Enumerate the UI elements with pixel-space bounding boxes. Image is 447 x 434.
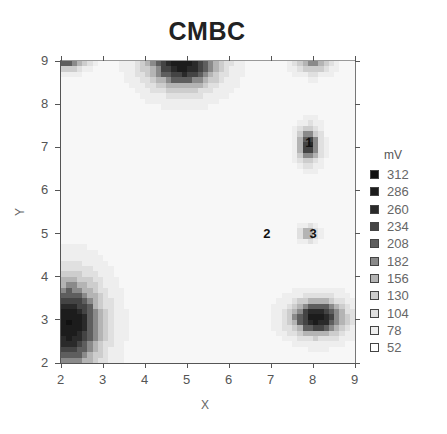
legend-label: 52 bbox=[387, 340, 401, 355]
legend-item: 234 bbox=[370, 218, 409, 235]
legend-item: 130 bbox=[370, 287, 409, 304]
x-tick-label: 7 bbox=[267, 372, 274, 387]
y-tick-right bbox=[355, 104, 360, 105]
x-tick-top bbox=[229, 56, 230, 61]
legend-item: 286 bbox=[370, 183, 409, 200]
legend-swatch bbox=[370, 343, 379, 352]
x-tick bbox=[271, 363, 272, 368]
y-tick-label: 2 bbox=[41, 355, 48, 370]
legend-item: 78 bbox=[370, 322, 409, 339]
x-tick-top bbox=[145, 56, 146, 61]
legend-swatch bbox=[370, 170, 379, 179]
y-tick-right bbox=[355, 233, 360, 234]
x-tick-label: 2 bbox=[57, 372, 64, 387]
legend-item: 260 bbox=[370, 201, 409, 218]
legend-swatch bbox=[370, 291, 379, 300]
x-tick bbox=[313, 363, 314, 368]
y-tick-label: 9 bbox=[41, 53, 48, 68]
legend: mV 3122862602342081821561301047852 bbox=[370, 148, 409, 356]
marker-2: 2 bbox=[260, 226, 274, 241]
legend-item: 156 bbox=[370, 270, 409, 287]
marker-1: 1 bbox=[302, 135, 316, 150]
legend-item: 208 bbox=[370, 235, 409, 252]
y-tick-right bbox=[355, 276, 360, 277]
legend-item: 182 bbox=[370, 252, 409, 269]
chart-title: CMBC bbox=[0, 17, 414, 46]
y-tick-label: 5 bbox=[41, 226, 48, 241]
y-tick bbox=[55, 233, 61, 234]
x-tick bbox=[187, 363, 188, 368]
y-tick-label: 6 bbox=[41, 182, 48, 197]
legend-label: 208 bbox=[387, 236, 409, 251]
legend-title: mV bbox=[384, 148, 409, 162]
y-tick-label: 8 bbox=[41, 96, 48, 111]
y-tick bbox=[55, 147, 61, 148]
legend-label: 260 bbox=[387, 202, 409, 217]
y-tick-label: 4 bbox=[41, 269, 48, 284]
legend-swatch bbox=[370, 257, 379, 266]
y-tick-label: 3 bbox=[41, 312, 48, 327]
x-tick bbox=[355, 363, 356, 368]
marker-3: 3 bbox=[306, 226, 320, 241]
legend-swatch bbox=[370, 222, 379, 231]
y-tick bbox=[55, 276, 61, 277]
legend-label: 234 bbox=[387, 219, 409, 234]
x-tick bbox=[145, 363, 146, 368]
legend-label: 312 bbox=[387, 167, 409, 182]
legend-swatch bbox=[370, 239, 379, 248]
heatmap-plot-area bbox=[61, 61, 355, 363]
x-tick-label: 8 bbox=[309, 372, 316, 387]
x-tick bbox=[229, 363, 230, 368]
legend-label: 130 bbox=[387, 288, 409, 303]
x-tick-top bbox=[103, 56, 104, 61]
x-tick bbox=[61, 363, 62, 368]
legend-item: 312 bbox=[370, 166, 409, 183]
x-tick bbox=[103, 363, 104, 368]
legend-item: 104 bbox=[370, 304, 409, 321]
y-tick-right bbox=[355, 147, 360, 148]
x-tick-label: 9 bbox=[351, 372, 358, 387]
x-tick-top bbox=[313, 56, 314, 61]
y-tick bbox=[55, 319, 61, 320]
x-tick-label: 6 bbox=[225, 372, 232, 387]
legend-label: 286 bbox=[387, 184, 409, 199]
x-tick-label: 3 bbox=[99, 372, 106, 387]
legend-label: 78 bbox=[387, 323, 401, 338]
y-tick-right bbox=[355, 319, 360, 320]
y-tick-right bbox=[355, 61, 360, 62]
x-axis-label: X bbox=[201, 398, 209, 412]
legend-swatch bbox=[370, 205, 379, 214]
y-tick bbox=[55, 104, 61, 105]
legend-item: 52 bbox=[370, 339, 409, 356]
legend-label: 104 bbox=[387, 306, 409, 321]
legend-swatch bbox=[370, 309, 379, 318]
y-tick bbox=[55, 190, 61, 191]
legend-swatch bbox=[370, 187, 379, 196]
y-tick-right bbox=[355, 363, 360, 364]
x-tick-top bbox=[271, 56, 272, 61]
y-tick-right bbox=[355, 190, 360, 191]
legend-swatch bbox=[370, 326, 379, 335]
x-tick-label: 4 bbox=[141, 372, 148, 387]
y-axis-label: Y bbox=[13, 208, 27, 216]
legend-label: 182 bbox=[387, 254, 409, 269]
legend-label: 156 bbox=[387, 271, 409, 286]
y-tick bbox=[55, 61, 61, 62]
y-tick bbox=[55, 363, 61, 364]
x-tick-label: 5 bbox=[183, 372, 190, 387]
x-tick-top bbox=[187, 56, 188, 61]
legend-swatch bbox=[370, 274, 379, 283]
y-tick-label: 7 bbox=[41, 139, 48, 154]
